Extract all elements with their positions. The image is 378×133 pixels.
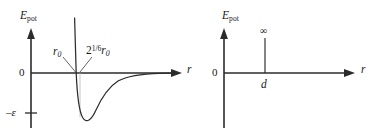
annotation-r-minimum: 21/6r0 <box>86 45 110 58</box>
y-axis-label-text-hs: E <box>222 9 229 21</box>
barrier-position-label-d: d <box>261 79 267 91</box>
y-axis-label-subscript: pot <box>27 14 37 23</box>
y-axis-hard-sphere <box>220 28 228 128</box>
depth-label-minus-epsilon: –ε <box>6 107 16 118</box>
panel-hard-sphere: Epot 0 ∞ d r <box>196 0 378 133</box>
x-axis-label-lennard-jones: r <box>187 64 191 76</box>
x-axis-label-hard-sphere: r <box>361 64 365 76</box>
r0-leader-line <box>63 57 76 72</box>
annotation-r-zero-subscript: 0 <box>57 50 61 59</box>
barrier-height-label-infinity: ∞ <box>260 26 267 36</box>
origin-label-lennard-jones: 0 <box>19 67 25 78</box>
lennard-jones-curve <box>75 18 173 121</box>
y-axis-label-hard-sphere: Epot <box>222 10 239 22</box>
annotation-r-minimum-exponent: 1/6 <box>92 44 101 53</box>
annotation-r-minimum-subscript: 0 <box>106 49 110 58</box>
y-axis-label-text: E <box>20 9 27 21</box>
figure-root: Epot 0 –ε r0 21/6r0 r <box>0 0 378 133</box>
rmin-leader-line <box>80 57 92 72</box>
panel-lennard-jones: Epot 0 –ε r0 21/6r0 r <box>0 0 200 133</box>
y-axis-label-subscript-hs: pot <box>229 14 239 23</box>
x-axis-hard-sphere <box>224 69 355 77</box>
origin-label-hard-sphere: 0 <box>212 67 218 78</box>
y-axis-label-lennard-jones: Epot <box>20 10 37 22</box>
annotation-r-zero: r0 <box>53 46 61 59</box>
